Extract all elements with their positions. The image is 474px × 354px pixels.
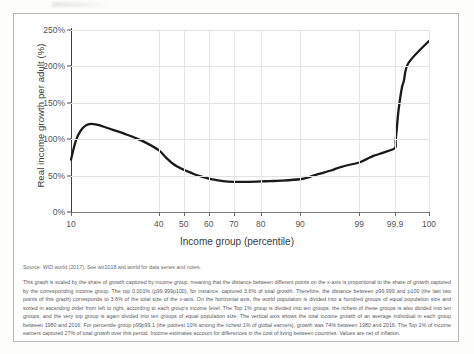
- figure-caption: Source: WID.world (2017). See wir2018.wi…: [23, 264, 451, 338]
- gridline-vertical: [261, 30, 262, 212]
- x-tick-label: 100: [422, 219, 436, 229]
- x-tick-label: 60: [204, 219, 213, 229]
- y-tick-label: 150%: [43, 98, 65, 108]
- y-tick-label: 100%: [43, 134, 65, 144]
- gridline-horizontal: [71, 176, 429, 177]
- x-tick-mark: [234, 212, 235, 216]
- y-tick-label: 200%: [43, 61, 65, 71]
- y-tick-label: 50%: [48, 171, 65, 181]
- y-tick-label: 250%: [43, 25, 65, 35]
- gridline-vertical: [395, 30, 396, 212]
- y-tick-mark: [67, 139, 71, 140]
- gridline-vertical: [300, 30, 301, 212]
- y-tick-mark: [67, 66, 71, 67]
- scan-artifact: [52, 2, 112, 7]
- x-tick-mark: [261, 212, 262, 216]
- x-tick-label: 80: [256, 219, 265, 229]
- gridline-vertical: [209, 30, 210, 212]
- x-tick-mark: [395, 212, 396, 216]
- gridline-horizontal: [71, 66, 429, 67]
- x-tick-label: 70: [229, 219, 238, 229]
- gridline-horizontal: [71, 139, 429, 140]
- x-tick-mark: [359, 212, 360, 216]
- gridline-vertical: [184, 30, 185, 212]
- x-tick-label: 99.9: [387, 219, 404, 229]
- gridline-vertical: [359, 30, 360, 212]
- y-tick-label: 0%: [53, 207, 65, 217]
- x-tick-mark: [71, 212, 72, 216]
- gridline-horizontal: [71, 103, 429, 104]
- figure-container: Real income growth per adult (%) 0%50%10…: [13, 13, 459, 342]
- y-tick-mark: [67, 30, 71, 31]
- figure-page: Real income growth per adult (%) 0%50%10…: [0, 0, 474, 354]
- x-tick-label: 99: [354, 219, 363, 229]
- x-tick-label: 50: [179, 219, 188, 229]
- x-tick-mark: [159, 212, 160, 216]
- gridline-vertical: [234, 30, 235, 212]
- gridline-horizontal: [71, 30, 429, 31]
- figure-note: This graph is scaled by the share of gro…: [23, 278, 451, 338]
- plot-region: 0%50%100%150%200%250%104050607080909999.…: [71, 30, 429, 212]
- x-tick-mark: [429, 212, 430, 216]
- y-tick-mark: [67, 175, 71, 176]
- x-axis-line: [71, 212, 429, 213]
- x-tick-mark: [209, 212, 210, 216]
- x-tick-label: 40: [154, 219, 163, 229]
- gridline-vertical: [429, 30, 430, 212]
- x-tick-label: 10: [66, 219, 75, 229]
- income-growth-curve: [71, 30, 429, 212]
- y-tick-mark: [67, 102, 71, 103]
- gridline-vertical: [159, 30, 160, 212]
- y-axis-title: Real income growth per adult (%): [35, 31, 46, 201]
- x-axis-title: Income group (percentile): [14, 236, 460, 247]
- source-line: Source: WID.world (2017). See wir2018.wi…: [23, 264, 451, 272]
- x-tick-label: 90: [295, 219, 304, 229]
- x-tick-mark: [300, 212, 301, 216]
- x-tick-mark: [184, 212, 185, 216]
- chart-area: Real income growth per adult (%) 0%50%10…: [14, 14, 460, 260]
